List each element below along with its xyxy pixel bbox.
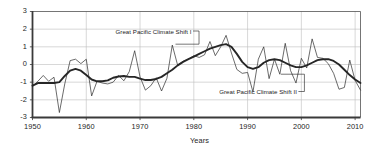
pdo-index-chart: 3210-1-2-3 1950196019701980199020002010 … xyxy=(0,0,379,150)
y-tick-label: 3 xyxy=(13,7,27,15)
annotation-shift-1: Great Pacific Climate Shift I xyxy=(0,28,192,35)
y-tick-label: -1 xyxy=(13,78,27,86)
x-tick-label: 1970 xyxy=(125,123,155,131)
x-tick-label: 1950 xyxy=(18,123,48,131)
x-axis-title: Years xyxy=(10,136,379,145)
series-line-2 xyxy=(33,44,361,86)
x-tick-label: 1990 xyxy=(233,123,263,131)
y-tick-label: -3 xyxy=(13,113,27,121)
x-tick-label: 1960 xyxy=(71,123,101,131)
x-tick-label: 2000 xyxy=(286,123,316,131)
y-tick-label: 1 xyxy=(13,43,27,51)
y-tick-label: -2 xyxy=(13,96,27,104)
y-tick-label: 0 xyxy=(13,60,27,68)
x-tick-label: 2010 xyxy=(340,123,370,131)
x-tick-label: 1980 xyxy=(179,123,209,131)
annotation-shift-2: Great Pacific Climate Shift II xyxy=(0,88,297,95)
